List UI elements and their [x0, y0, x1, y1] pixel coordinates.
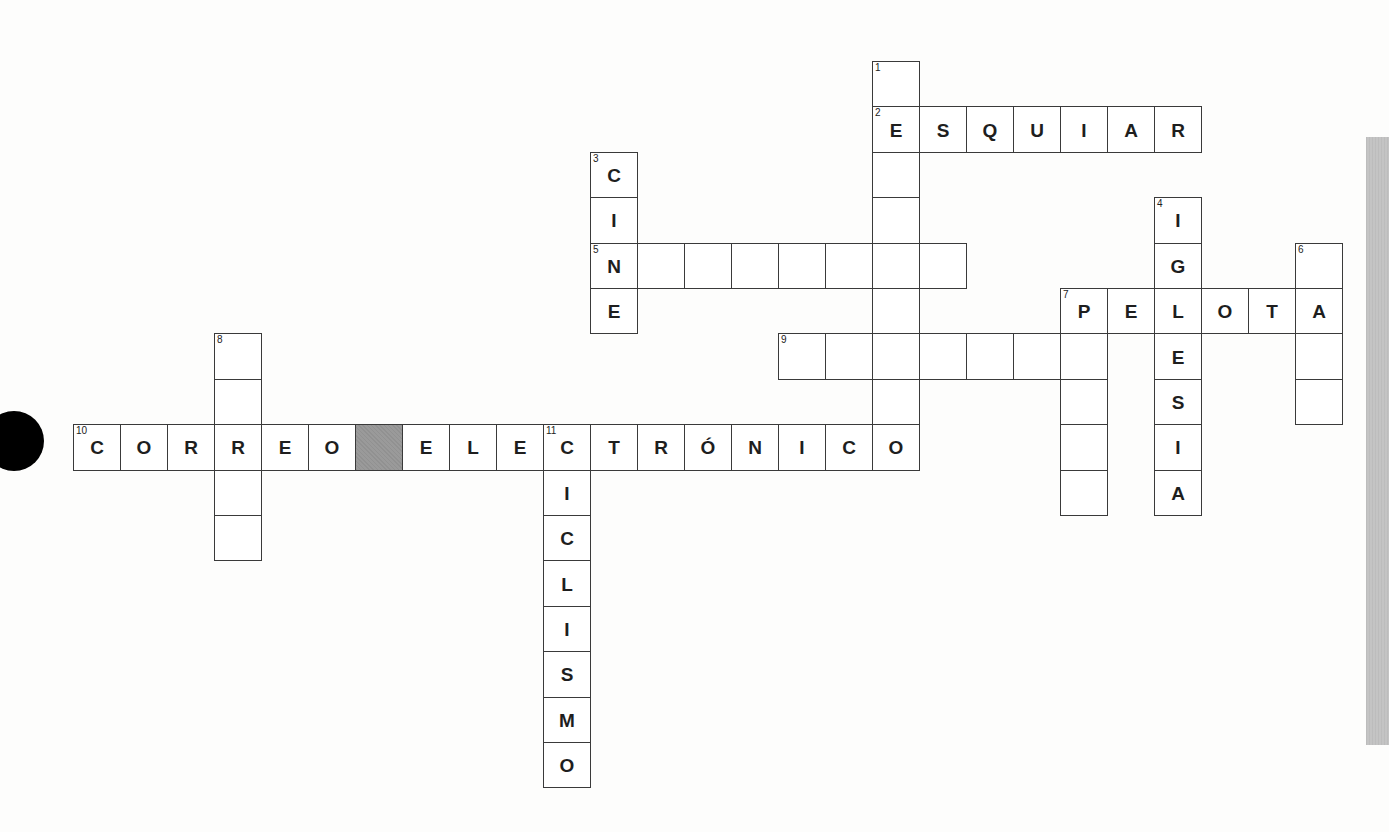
crossword-cell[interactable]	[1060, 333, 1108, 379]
crossword-cell[interactable]: Ó	[684, 424, 732, 470]
crossword-cell[interactable]	[825, 243, 873, 289]
crossword-cell[interactable]: N	[731, 424, 779, 470]
crossword-cell[interactable]	[966, 333, 1014, 379]
crossword-puzzle: 12ESQUIAR3CI4I5NG6E7PELOTA89ES10CORREOEL…	[0, 0, 1389, 832]
crossword-cell[interactable]: L	[1154, 288, 1202, 334]
crossword-cell[interactable]: E	[261, 424, 309, 470]
crossword-cell[interactable]: I	[1060, 106, 1108, 152]
crossword-cell[interactable]	[1295, 333, 1343, 379]
crossword-cell[interactable]: O	[1201, 288, 1249, 334]
cell-letter: S	[1172, 392, 1185, 414]
crossword-cell[interactable]: R	[637, 424, 685, 470]
crossword-cell[interactable]: S	[543, 651, 591, 697]
cell-letter: E	[1172, 347, 1185, 369]
cell-letter: R	[231, 437, 245, 459]
cell-letter: Q	[983, 120, 998, 142]
crossword-cell[interactable]	[684, 243, 732, 289]
crossword-cell[interactable]: 4I	[1154, 197, 1202, 243]
crossword-cell[interactable]	[1060, 470, 1108, 516]
crossword-cell[interactable]	[919, 333, 967, 379]
crossword-cell[interactable]: T	[1248, 288, 1296, 334]
cell-letter: I	[611, 210, 616, 232]
crossword-cell[interactable]: 3C	[590, 152, 638, 198]
cell-letter: S	[937, 120, 950, 142]
crossword-cell[interactable]: O	[543, 742, 591, 788]
cell-letter: R	[1171, 120, 1185, 142]
cell-letter: E	[1125, 301, 1138, 323]
crossword-cell[interactable]	[1060, 379, 1108, 425]
crossword-cell[interactable]	[872, 379, 920, 425]
crossword-cell[interactable]: I	[1154, 424, 1202, 470]
crossword-cell[interactable]: R	[214, 424, 262, 470]
crossword-cell[interactable]: R	[1154, 106, 1202, 152]
clue-number: 9	[781, 334, 787, 345]
crossword-cell[interactable]: O	[120, 424, 168, 470]
crossword-cell[interactable]: E	[1107, 288, 1155, 334]
crossword-cell[interactable]: E	[1154, 333, 1202, 379]
crossword-cell[interactable]	[872, 288, 920, 334]
crossword-cell[interactable]: 8	[214, 333, 262, 379]
cell-letter: O	[137, 437, 152, 459]
crossword-cell[interactable]	[1013, 333, 1061, 379]
crossword-cell[interactable]: C	[543, 515, 591, 561]
crossword-cell[interactable]: L	[543, 560, 591, 606]
crossword-cell[interactable]: 9	[778, 333, 826, 379]
crossword-cell[interactable]: I	[778, 424, 826, 470]
crossword-cell[interactable]: I	[543, 470, 591, 516]
crossword-cell[interactable]: 2E	[872, 106, 920, 152]
crossword-cell[interactable]	[872, 333, 920, 379]
crossword-cell[interactable]	[919, 243, 967, 289]
crossword-cell[interactable]: R	[167, 424, 215, 470]
crossword-cell[interactable]: 7P	[1060, 288, 1108, 334]
crossword-cell[interactable]	[872, 197, 920, 243]
crossword-cell[interactable]: I	[590, 197, 638, 243]
clue-number: 3	[593, 153, 599, 164]
crossword-cell[interactable]: S	[1154, 379, 1202, 425]
crossword-cell[interactable]	[637, 243, 685, 289]
crossword-cell[interactable]: C	[825, 424, 873, 470]
clue-number: 7	[1063, 289, 1069, 300]
cell-letter: O	[1218, 301, 1233, 323]
crossword-cell[interactable]	[778, 243, 826, 289]
cell-letter: I	[799, 437, 804, 459]
crossword-cell[interactable]	[1295, 379, 1343, 425]
clue-number: 2	[875, 107, 881, 118]
crossword-cell[interactable]: I	[543, 606, 591, 652]
crossword-cell[interactable]	[214, 470, 262, 516]
crossword-cell[interactable]: L	[449, 424, 497, 470]
crossword-cell[interactable]: A	[1295, 288, 1343, 334]
cell-letter: R	[654, 437, 668, 459]
crossword-cell[interactable]: 1	[872, 61, 920, 107]
crossword-cell[interactable]: 11C	[543, 424, 591, 470]
crossword-cell[interactable]: O	[872, 424, 920, 470]
cell-letter: C	[90, 437, 104, 459]
crossword-cell[interactable]: E	[402, 424, 450, 470]
crossword-cell[interactable]	[731, 243, 779, 289]
cell-letter: N	[748, 437, 762, 459]
clue-number: 10	[76, 425, 87, 436]
crossword-cell[interactable]: 10C	[73, 424, 121, 470]
crossword-cell[interactable]	[825, 333, 873, 379]
crossword-cell[interactable]: G	[1154, 243, 1202, 289]
crossword-cell[interactable]: S	[919, 106, 967, 152]
crossword-cell[interactable]: O	[308, 424, 356, 470]
black-circle-marker	[0, 411, 44, 471]
crossword-cell[interactable]: T	[590, 424, 638, 470]
crossword-cell[interactable]: A	[1107, 106, 1155, 152]
crossword-cell[interactable]: E	[590, 288, 638, 334]
crossword-cell[interactable]	[214, 379, 262, 425]
crossword-cell[interactable]	[872, 243, 920, 289]
crossword-cell[interactable]: 5N	[590, 243, 638, 289]
crossword-cell[interactable]	[214, 515, 262, 561]
crossword-cell[interactable]: E	[496, 424, 544, 470]
cell-letter: A	[1124, 120, 1138, 142]
crossword-cell[interactable]: A	[1154, 470, 1202, 516]
crossword-cell[interactable]	[1060, 424, 1108, 470]
crossword-cell[interactable]: U	[1013, 106, 1061, 152]
clue-number: 8	[217, 334, 223, 345]
cell-letter: E	[279, 437, 292, 459]
crossword-cell[interactable]: 6	[1295, 243, 1343, 289]
crossword-cell[interactable]: Q	[966, 106, 1014, 152]
crossword-cell[interactable]	[872, 152, 920, 198]
crossword-cell[interactable]: M	[543, 697, 591, 743]
